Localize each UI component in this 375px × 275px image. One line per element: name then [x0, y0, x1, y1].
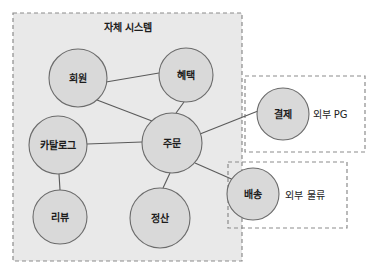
- node-order[interactable]: 주문: [142, 113, 202, 173]
- node-member[interactable]: 회원: [49, 49, 107, 107]
- node-label-payment: 결제: [274, 108, 292, 120]
- nodes-layer: 회원혜택주문카탈로그리뷰정산결제배송: [29, 48, 309, 248]
- node-review[interactable]: 리뷰: [33, 190, 87, 244]
- node-label-settlement: 정산: [151, 212, 170, 224]
- node-catalog[interactable]: 카탈로그: [29, 116, 87, 174]
- system-boundary-diagram: 회원혜택주문카탈로그리뷰정산결제배송 자체 시스템외부 PG외부 물류: [0, 0, 375, 275]
- node-label-review: 리뷰: [51, 211, 69, 223]
- node-benefit[interactable]: 혜택: [159, 48, 213, 102]
- node-label-benefit: 혜택: [177, 69, 195, 81]
- node-label-shipping: 배송: [244, 188, 262, 200]
- node-shipping[interactable]: 배송: [227, 168, 279, 220]
- node-payment[interactable]: 결제: [257, 88, 309, 140]
- diagram-canvas: 회원혜택주문카탈로그리뷰정산결제배송 자체 시스템외부 PG외부 물류: [0, 0, 375, 275]
- group-label-external-pg: 외부 PG: [313, 109, 348, 120]
- node-label-catalog: 카탈로그: [40, 139, 76, 151]
- node-label-member: 회원: [69, 72, 87, 84]
- group-label-external-logistics: 외부 물류: [285, 190, 324, 201]
- node-settlement[interactable]: 정산: [130, 188, 190, 248]
- node-label-order: 주문: [163, 138, 181, 149]
- group-label-internal-system: 자체 시스템: [104, 21, 152, 33]
